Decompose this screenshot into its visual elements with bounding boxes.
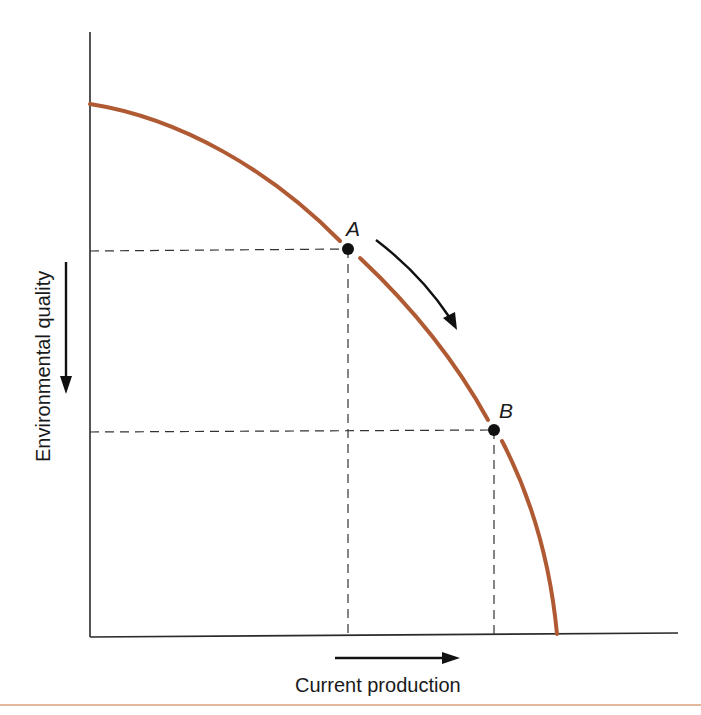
movement-arrowhead-icon <box>443 312 457 330</box>
ppf-chart: A B Current production Environmental qua… <box>0 0 701 715</box>
arrow-down-icon <box>60 376 72 394</box>
point-a-label: A <box>344 217 360 240</box>
x-axis-label: Current production <box>295 674 461 696</box>
ppf-curve-segment-1 <box>90 104 340 241</box>
arrow-right-icon <box>442 652 460 664</box>
dashed-guide-a-horizontal <box>90 249 348 251</box>
ppf-curve-segment-2 <box>360 258 488 420</box>
movement-arrow-shaft <box>376 240 450 318</box>
point-b-label: B <box>499 399 513 422</box>
x-axis <box>90 633 678 637</box>
y-axis-label: Environmental quality <box>32 271 54 462</box>
dashed-guide-b-horizontal <box>90 430 494 432</box>
ppf-curve-segment-3 <box>502 441 557 634</box>
point-a-marker <box>342 243 354 255</box>
point-b-marker <box>488 424 500 436</box>
